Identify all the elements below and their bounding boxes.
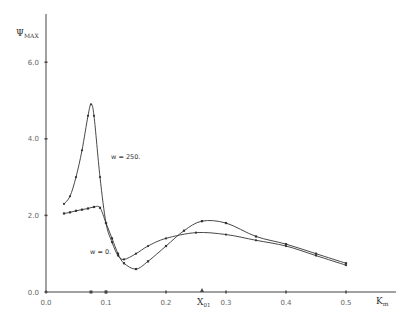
x01-marker-icon	[200, 288, 204, 292]
series-line	[64, 206, 346, 269]
data-point	[165, 245, 167, 247]
data-point	[255, 239, 257, 241]
data-point	[147, 245, 149, 247]
y-tick-label: 2.0	[28, 212, 39, 220]
series-lines	[63, 103, 347, 270]
y-axis-title: ΨMAX	[16, 28, 39, 39]
data-point	[81, 149, 83, 151]
data-point	[315, 253, 317, 255]
data-point	[63, 212, 65, 214]
data-point	[75, 210, 77, 212]
chart: 0.00.10.20.30.40.50.02.04.06.0 ΨMAX Km X…	[0, 0, 415, 323]
series-w250	[63, 103, 347, 266]
data-point	[123, 262, 125, 264]
annotation-w250: w = 250.	[111, 153, 140, 161]
data-point	[345, 262, 347, 264]
series-w0	[63, 206, 347, 270]
x-axis-title: Km	[376, 296, 389, 307]
data-point	[225, 222, 227, 224]
data-point	[105, 222, 107, 224]
data-point	[75, 176, 77, 178]
data-point	[99, 207, 101, 209]
y-tick-label: 6.0	[28, 59, 39, 67]
x-tick-label: 0.5	[340, 299, 351, 307]
data-point	[87, 115, 89, 117]
data-point	[93, 206, 95, 208]
data-point	[63, 203, 65, 205]
data-point	[93, 115, 95, 117]
axis-marker	[90, 291, 93, 294]
data-point	[87, 207, 89, 209]
annotation-w0: w = 0.	[90, 248, 111, 256]
data-point	[195, 232, 197, 234]
data-point	[90, 103, 92, 105]
x-tick-label: 0.3	[220, 299, 231, 307]
data-point	[345, 264, 347, 266]
series-line	[64, 104, 346, 265]
x-tick-label: 0.1	[100, 299, 111, 307]
data-point	[99, 176, 101, 178]
data-point	[123, 258, 125, 260]
data-point	[225, 233, 227, 235]
data-point	[201, 220, 203, 222]
data-point	[255, 235, 257, 237]
data-point	[111, 237, 113, 239]
y-tick-label: 4.0	[28, 135, 39, 143]
data-point	[69, 211, 71, 213]
x-tick-label: 0.0	[40, 299, 51, 307]
data-point	[147, 260, 149, 262]
axes: 0.00.10.20.30.40.50.02.04.06.0	[28, 14, 396, 307]
data-point	[69, 195, 71, 197]
data-point	[165, 237, 167, 239]
data-point	[285, 243, 287, 245]
data-point	[183, 230, 185, 232]
data-point	[117, 253, 119, 255]
y-tick-label: 0.0	[28, 289, 39, 297]
data-point	[135, 268, 137, 270]
x01-marker-label: X01	[197, 297, 210, 308]
data-point	[135, 253, 137, 255]
data-point	[285, 245, 287, 247]
axis-marker	[105, 291, 108, 294]
data-point	[81, 209, 83, 211]
x-tick-label: 0.2	[160, 299, 171, 307]
x-tick-label: 0.4	[280, 299, 292, 307]
data-point	[315, 255, 317, 257]
